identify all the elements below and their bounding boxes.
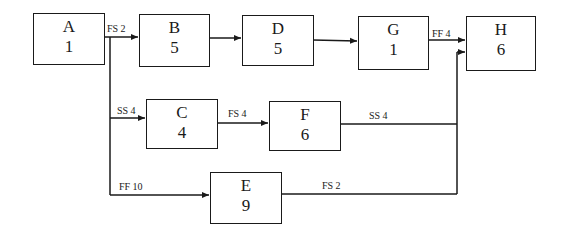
node-c-duration: 4 — [147, 124, 217, 142]
node-e-duration: 9 — [211, 197, 281, 215]
node-g-duration: 1 — [359, 41, 428, 59]
link-label-a-c: SS 4 — [117, 106, 136, 116]
link-label-e-h: FS 2 — [322, 181, 341, 191]
node-b-duration: 5 — [140, 39, 209, 57]
node-a-name: A — [34, 18, 104, 36]
node-d: D 5 — [242, 15, 314, 66]
node-e-name: E — [211, 177, 281, 195]
node-b: B 5 — [139, 14, 210, 67]
node-c: C 4 — [146, 99, 218, 149]
link-d-g — [313, 40, 357, 41]
link-label-f-h: SS 4 — [369, 111, 388, 121]
node-f: F 6 — [269, 101, 341, 151]
node-h: H 6 — [466, 16, 536, 71]
node-h-duration: 6 — [467, 41, 535, 59]
node-c-name: C — [147, 104, 217, 122]
node-e: E 9 — [210, 172, 282, 224]
link-label-a-e: FF 10 — [119, 182, 143, 192]
node-d-name: D — [243, 20, 313, 38]
node-g: G 1 — [358, 16, 429, 70]
node-g-name: G — [359, 21, 428, 39]
node-a: A 1 — [33, 13, 105, 65]
node-b-name: B — [140, 19, 209, 37]
node-d-duration: 5 — [243, 40, 313, 58]
link-label-a-b: FS 2 — [107, 24, 126, 34]
precedence-diagram: A 1 B 5 D 5 G 1 H 6 C 4 F 6 E 9 FS 2 FF … — [0, 0, 565, 239]
node-h-name: H — [467, 21, 535, 39]
node-a-duration: 1 — [34, 38, 104, 56]
node-f-duration: 6 — [270, 126, 340, 144]
node-f-name: F — [270, 106, 340, 124]
link-label-c-f: FS 4 — [228, 109, 247, 119]
link-label-g-h: FF 4 — [432, 29, 451, 39]
